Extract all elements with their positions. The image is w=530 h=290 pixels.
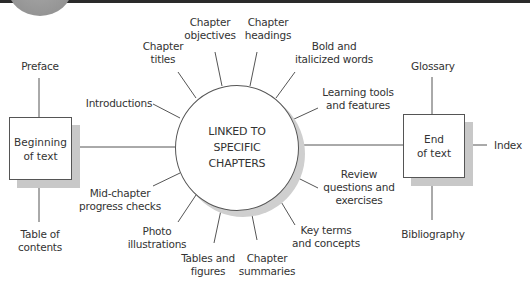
label-index: Index: [494, 139, 522, 152]
spoke-chapter-objectives: [215, 52, 222, 86]
label-line: exercises: [323, 194, 394, 207]
label-mid-chapter-checks: Mid-chapter progress checks: [79, 187, 161, 213]
label-line: Chapter: [143, 40, 184, 53]
label-preface: Preface: [21, 60, 59, 73]
linked-to-specific-chapters-hub: LINKED TO SPECIFIC CHAPTERS: [175, 85, 299, 211]
hub-label-line: SPECIFIC: [208, 140, 265, 156]
label-bold-italicized-words: Bold and italicized words: [295, 40, 373, 66]
box-label-line: End: [417, 132, 451, 146]
label-line: progress checks: [79, 200, 161, 213]
label-line: contents: [18, 241, 62, 254]
spoke-learning-tools: [292, 108, 318, 120]
box-label-line: of text: [417, 146, 451, 160]
label-line: Glossary: [411, 60, 455, 73]
label-line: Bibliography: [401, 228, 465, 241]
label-line: and concepts: [292, 237, 360, 250]
label-tables-figures: Tables and figures: [181, 252, 235, 278]
label-line: Chapter: [239, 252, 295, 265]
label-line: objectives: [184, 29, 235, 42]
spoke-chapter-summaries: [251, 210, 257, 240]
label-line: Learning tools: [322, 86, 393, 99]
hub-label-line: LINKED TO: [208, 124, 265, 140]
label-line: Key terms: [292, 224, 360, 237]
label-line: italicized words: [295, 53, 373, 66]
spoke-chapter-titles: [178, 72, 196, 98]
label-line: titles: [143, 53, 184, 66]
label-line: Tables and: [181, 252, 235, 265]
spoke-key-terms: [280, 200, 295, 225]
spoke-mid-chapter-checks: [153, 173, 180, 186]
label-photo-illustrations: Photo illustrations: [128, 225, 187, 251]
label-introductions: Introductions: [86, 97, 152, 110]
label-chapter-summaries: Chapter summaries: [239, 252, 295, 278]
label-key-terms: Key terms and concepts: [292, 224, 360, 250]
end-of-text-box: End of text: [403, 114, 465, 178]
label-line: Chapter: [245, 16, 291, 29]
spoke-photo-illustrations: [178, 195, 196, 222]
label-line: headings: [245, 29, 291, 42]
spoke-bold-italicized: [276, 72, 295, 98]
label-line: Preface: [21, 60, 59, 73]
spoke-introductions: [153, 104, 180, 118]
box-label-line: of text: [14, 149, 67, 163]
label-line: illustrations: [128, 238, 187, 251]
label-chapter-objectives: Chapter objectives: [184, 16, 235, 42]
label-chapter-titles: Chapter titles: [143, 40, 184, 66]
label-line: and features: [322, 99, 393, 112]
label-line: Introductions: [86, 97, 152, 110]
label-review-questions: Review questions and exercises: [323, 168, 394, 207]
beginning-of-text-box: Beginning of text: [9, 117, 72, 180]
label-line: Index: [494, 139, 522, 152]
spoke-chapter-headings: [250, 52, 257, 86]
label-line: Mid-chapter: [79, 187, 161, 200]
label-line: Photo: [128, 225, 187, 238]
label-line: Review: [323, 168, 394, 181]
label-line: figures: [181, 265, 235, 278]
label-learning-tools: Learning tools and features: [322, 86, 393, 112]
label-line: questions and: [323, 181, 394, 194]
spoke-review-questions: [292, 175, 318, 188]
label-line: Table of: [18, 228, 62, 241]
label-glossary: Glossary: [411, 60, 455, 73]
spoke-tables-figures: [214, 210, 221, 243]
label-chapter-headings: Chapter headings: [245, 16, 291, 42]
label-line: summaries: [239, 265, 295, 278]
hub-label-line: CHAPTERS: [208, 156, 265, 172]
label-line: Chapter: [184, 16, 235, 29]
label-bibliography: Bibliography: [401, 228, 465, 241]
label-line: Bold and: [295, 40, 373, 53]
box-label-line: Beginning: [14, 135, 67, 149]
label-table-of-contents: Table of contents: [18, 228, 62, 254]
